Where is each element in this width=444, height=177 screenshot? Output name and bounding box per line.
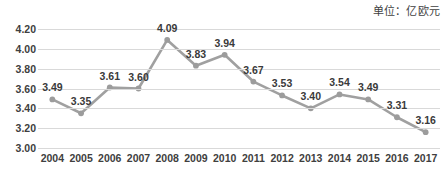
gridline xyxy=(38,148,440,149)
y-axis-tick-label: 3.00 xyxy=(2,142,36,154)
y-axis-tick-label: 3.20 xyxy=(2,122,36,134)
x-axis-tick-label: 2016 xyxy=(385,152,408,164)
x-axis-tick-label: 2009 xyxy=(184,152,207,164)
x-axis-tick-label: 2007 xyxy=(127,152,150,164)
x-axis: 2004200520062007200820092010201120122013… xyxy=(38,152,440,174)
y-axis: 3.003.203.403.603.804.004.20 xyxy=(0,29,36,148)
data-point-label: 3.83 xyxy=(186,48,206,60)
y-axis-tick-label: 4.00 xyxy=(2,43,36,55)
data-point-marker xyxy=(222,52,228,58)
gridline xyxy=(38,29,440,30)
data-point-label: 3.31 xyxy=(387,99,407,111)
data-point-marker xyxy=(49,97,55,103)
y-axis-tick-label: 3.60 xyxy=(2,83,36,95)
y-axis-tick-label: 4.20 xyxy=(2,23,36,35)
data-point-marker xyxy=(164,37,170,43)
data-point-marker xyxy=(107,85,113,91)
x-axis-tick-label: 2005 xyxy=(69,152,92,164)
x-axis-tick-label: 2008 xyxy=(156,152,179,164)
x-axis-tick-label: 2006 xyxy=(98,152,121,164)
data-point-label: 3.16 xyxy=(415,114,435,126)
data-point-label: 3.49 xyxy=(358,81,378,93)
gridline xyxy=(38,108,440,109)
data-point-label: 3.40 xyxy=(301,90,321,102)
x-axis-tick-label: 2012 xyxy=(270,152,293,164)
gridline xyxy=(38,49,440,50)
x-axis-tick-label: 2015 xyxy=(357,152,380,164)
plot-area: 3.493.353.613.604.093.833.943.673.533.40… xyxy=(38,29,440,148)
x-axis-tick-label: 2014 xyxy=(328,152,351,164)
gridline xyxy=(38,69,440,70)
data-point-marker xyxy=(78,110,84,116)
data-point-label: 3.60 xyxy=(128,71,148,83)
gridline xyxy=(38,89,440,90)
data-point-label: 4.09 xyxy=(157,22,177,34)
x-axis-tick-label: 2011 xyxy=(242,152,265,164)
x-axis-tick-label: 2004 xyxy=(41,152,64,164)
data-point-label: 3.94 xyxy=(214,37,234,49)
x-axis-tick-label: 2017 xyxy=(414,152,437,164)
data-point-label: 3.35 xyxy=(71,95,91,107)
data-point-marker xyxy=(394,114,400,120)
data-point-marker xyxy=(423,129,429,135)
data-point-marker xyxy=(250,79,256,85)
data-point-label: 3.54 xyxy=(329,76,349,88)
x-axis-tick-label: 2013 xyxy=(299,152,322,164)
data-point-label: 3.49 xyxy=(42,81,62,93)
data-point-marker xyxy=(365,97,371,103)
y-axis-tick-label: 3.80 xyxy=(2,63,36,75)
gridline xyxy=(38,128,440,129)
line-chart: 单位：亿欧元 3.003.203.403.603.804.004.20 3.49… xyxy=(0,0,444,177)
data-point-marker xyxy=(337,92,343,98)
data-point-label: 3.67 xyxy=(243,64,263,76)
unit-caption: 单位：亿欧元 xyxy=(373,2,440,18)
data-point-label: 3.61 xyxy=(100,70,120,82)
data-point-marker xyxy=(279,93,285,99)
data-point-label: 3.53 xyxy=(272,77,292,89)
y-axis-tick-label: 3.40 xyxy=(2,102,36,114)
x-axis-tick-label: 2010 xyxy=(213,152,236,164)
